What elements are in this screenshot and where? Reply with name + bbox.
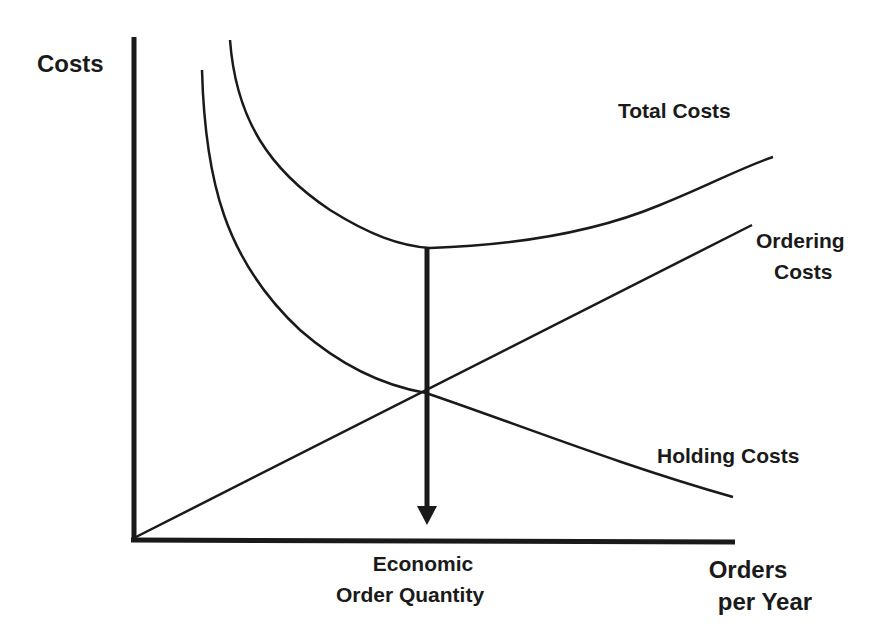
ordering-costs-label-line2: Costs: [774, 260, 832, 283]
ordering-costs-label-line1: Ordering: [756, 229, 845, 252]
x-axis-label-line2: per Year: [718, 588, 812, 615]
total-costs-label: Total Costs: [618, 99, 731, 122]
eoq-arrow-head-icon: [417, 506, 437, 525]
holding-costs-curve: [202, 70, 733, 497]
eoq-chart: Costs Total Costs Ordering Costs Holding…: [0, 0, 895, 634]
holding-costs-label: Holding Costs: [657, 444, 799, 467]
eoq-label-line1: Economic: [373, 552, 474, 575]
x-axis-label-line1: Orders: [709, 556, 788, 583]
x-axis: [131, 540, 735, 542]
ordering-costs-line: [134, 225, 752, 538]
eoq-label-line2: Order Quantity: [336, 583, 485, 606]
total-costs-curve: [230, 40, 773, 248]
y-axis-label: Costs: [37, 50, 104, 77]
